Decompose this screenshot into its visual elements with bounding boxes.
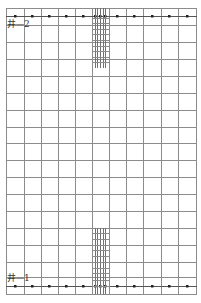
survey-point-icon bbox=[133, 15, 136, 18]
survey-point-icon bbox=[82, 15, 85, 18]
survey-point-icon bbox=[116, 15, 119, 18]
survey-point-icon bbox=[82, 285, 85, 288]
survey-point-icon bbox=[31, 15, 34, 18]
well-label-bottom: 井—1 bbox=[7, 274, 29, 283]
survey-point-icon bbox=[186, 15, 189, 18]
survey-point-icon bbox=[14, 285, 17, 288]
survey-dot-lines bbox=[6, 15, 197, 288]
well-grid-diagram bbox=[0, 0, 201, 303]
survey-point-icon bbox=[151, 285, 154, 288]
survey-point-icon bbox=[168, 285, 171, 288]
survey-point-icon bbox=[48, 15, 51, 18]
survey-point-icon bbox=[151, 15, 154, 18]
survey-point-icon bbox=[65, 15, 68, 18]
survey-point-icon bbox=[31, 285, 34, 288]
survey-point-icon bbox=[14, 15, 17, 18]
well-label-top: 井—2 bbox=[7, 20, 29, 29]
central-ladder-structure bbox=[92, 8, 110, 294]
survey-point-icon bbox=[186, 285, 189, 288]
survey-point-icon bbox=[48, 285, 51, 288]
survey-point-icon bbox=[65, 285, 68, 288]
survey-point-icon bbox=[168, 15, 171, 18]
survey-point-icon bbox=[133, 285, 136, 288]
grid-lines bbox=[6, 8, 197, 295]
survey-point-icon bbox=[116, 285, 119, 288]
